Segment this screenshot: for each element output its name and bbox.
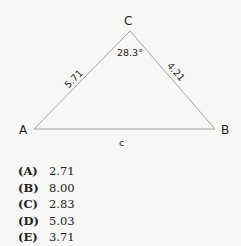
choice-e[interactable]: (E) 3.71 bbox=[18, 229, 75, 246]
choice-value: 5.03 bbox=[49, 213, 75, 230]
choice-value: 2.83 bbox=[49, 196, 75, 213]
choice-letter: (A) bbox=[18, 163, 49, 180]
triangle-abc bbox=[34, 31, 215, 129]
angle-c-label: 28.3° bbox=[117, 47, 143, 58]
side-ab-label: c bbox=[119, 137, 124, 148]
choice-value: 2.71 bbox=[49, 163, 75, 180]
choice-letter: (B) bbox=[18, 180, 49, 197]
vertex-c-label: C bbox=[124, 14, 132, 28]
choice-a[interactable]: (A) 2.71 bbox=[18, 163, 75, 180]
choice-letter: (D) bbox=[18, 213, 49, 230]
side-bc-label: 4.21 bbox=[165, 60, 187, 83]
choice-letter: (C) bbox=[18, 196, 49, 213]
choice-value: 3.71 bbox=[49, 229, 75, 246]
vertex-b-label: B bbox=[221, 123, 229, 137]
choice-d[interactable]: (D) 5.03 bbox=[18, 213, 75, 230]
choice-b[interactable]: (B) 8.00 bbox=[18, 180, 75, 197]
vertex-a-label: A bbox=[19, 123, 28, 137]
choice-letter: (E) bbox=[18, 229, 49, 246]
answer-choices: (A) 2.71 (B) 8.00 (C) 2.83 (D) 5.03 (E) … bbox=[18, 163, 75, 246]
triangle-diagram: A B C 28.3° 5.71 4.21 c bbox=[0, 0, 241, 150]
side-ac-label: 5.71 bbox=[62, 67, 85, 90]
choice-c[interactable]: (C) 2.83 bbox=[18, 196, 75, 213]
choice-value: 8.00 bbox=[49, 180, 75, 197]
